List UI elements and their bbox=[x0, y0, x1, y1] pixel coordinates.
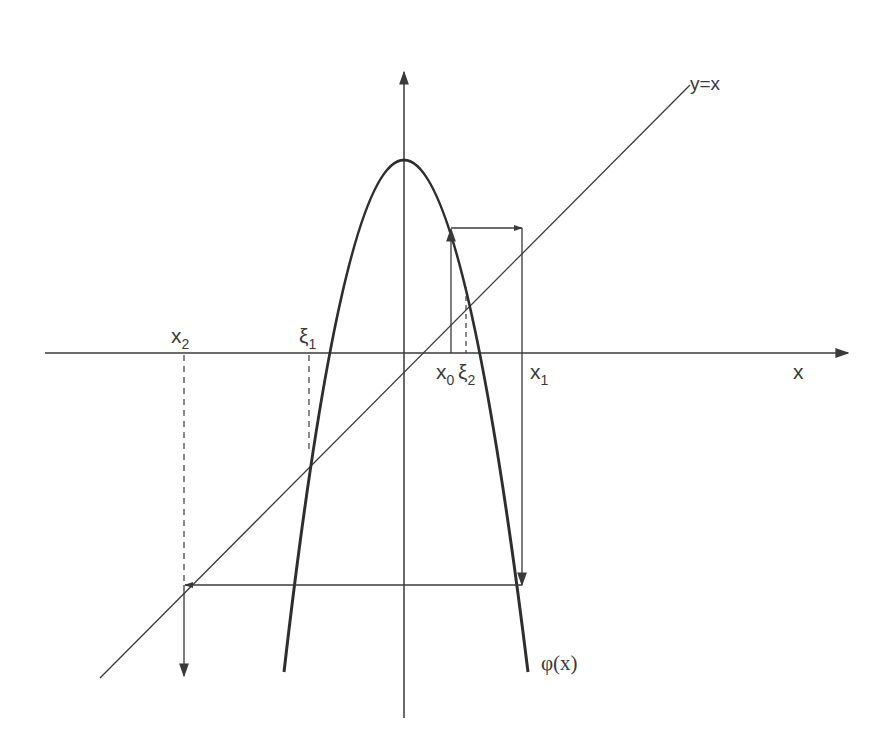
x2-label: x2 bbox=[171, 324, 190, 352]
identity-line-label: y=x bbox=[690, 73, 721, 94]
identity-line bbox=[100, 85, 690, 678]
xi2-label: ξ2 bbox=[458, 360, 475, 388]
x1-label: x1 bbox=[530, 360, 549, 388]
fixed-point-iteration-diagram: y=x x φ(x) x2 ξ1 x0 ξ2 x1 bbox=[0, 0, 890, 745]
x0-label: x0 bbox=[436, 360, 455, 388]
phi-curve bbox=[284, 160, 528, 672]
xi1-label: ξ1 bbox=[299, 324, 316, 352]
phi-curve-label: φ(x) bbox=[541, 651, 578, 675]
x-axis-label: x bbox=[793, 360, 804, 383]
